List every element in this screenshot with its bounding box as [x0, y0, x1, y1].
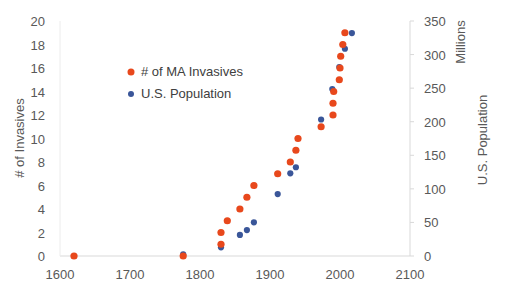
y2-tick-label: 200 [424, 115, 446, 130]
x-tick-label: 2100 [396, 267, 425, 282]
y2-tick-label: 50 [424, 215, 438, 230]
legend-label-population: U.S. Population [141, 86, 231, 101]
invasives-point [339, 41, 346, 48]
x-tick-label: 1700 [116, 267, 145, 282]
population-point [293, 164, 299, 170]
y-tick-label: 2 [38, 226, 45, 241]
y-tick-label: 20 [31, 14, 45, 29]
population-point [275, 191, 281, 197]
population-point [237, 232, 243, 238]
y2-tick-label: 150 [424, 148, 446, 163]
y2-tick-label: 350 [424, 14, 446, 29]
x-tick-label: 1800 [186, 267, 215, 282]
invasives-point [250, 182, 257, 189]
scatter-chart: 1600170018001900200021000246810121416182… [0, 0, 515, 294]
invasives-point [329, 111, 336, 118]
y2-tick-label: 300 [424, 48, 446, 63]
y-tick-label: 10 [31, 132, 45, 147]
legend-label-invasives: # of MA Invasives [141, 64, 243, 79]
invasives-point [180, 252, 187, 259]
invasives-point [294, 135, 301, 142]
population-point [287, 170, 293, 176]
invasives-point [243, 194, 250, 201]
invasives-point [217, 241, 224, 248]
invasives-point [274, 170, 281, 177]
legend-marker-invasives [128, 69, 135, 76]
invasives-point [336, 76, 343, 83]
population-point [251, 219, 257, 225]
x-tick-label: 1600 [46, 267, 75, 282]
y-tick-label: 0 [38, 249, 45, 264]
y2-tick-label: 0 [424, 249, 431, 264]
y-axis-title: # of Invasives [12, 98, 27, 178]
y-tick-label: 18 [31, 38, 45, 53]
invasives-point [292, 147, 299, 154]
invasives-point [224, 217, 231, 224]
y-tick-label: 6 [38, 179, 45, 194]
x-tick-label: 1900 [256, 267, 285, 282]
invasives-point [217, 229, 224, 236]
y-tick-label: 16 [31, 61, 45, 76]
invasives-point [318, 123, 325, 130]
legend: # of MA Invasives U.S. Population [128, 64, 244, 101]
y-tick-label: 4 [38, 202, 45, 217]
x-tick-label: 2000 [326, 267, 355, 282]
invasives-point [336, 64, 343, 71]
population-point [349, 30, 355, 36]
y2-axis-unit: Millions [453, 20, 468, 64]
legend-marker-population [128, 91, 134, 97]
invasives-point [329, 100, 336, 107]
y2-tick-label: 100 [424, 182, 446, 197]
invasives-point [337, 53, 344, 60]
invasives-point [341, 29, 348, 36]
population-point [244, 227, 250, 233]
invasives-point [287, 158, 294, 165]
invasives-point [330, 88, 337, 95]
y-tick-label: 14 [31, 85, 45, 100]
y-tick-label: 12 [31, 108, 45, 123]
invasives-point [70, 252, 77, 259]
axes: 1600170018001900200021000246810121416182… [31, 14, 446, 282]
y2-tick-label: 250 [424, 81, 446, 96]
y-tick-label: 8 [38, 155, 45, 170]
y2-axis-title: U.S. Population [475, 95, 490, 185]
population-point [318, 116, 324, 122]
invasives-point [236, 205, 243, 212]
